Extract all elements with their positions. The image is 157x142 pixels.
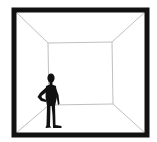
silhouette-neck [50,82,53,85]
silhouette-head [47,73,54,82]
background [0,0,157,142]
room-perspective-diagram [0,0,157,142]
